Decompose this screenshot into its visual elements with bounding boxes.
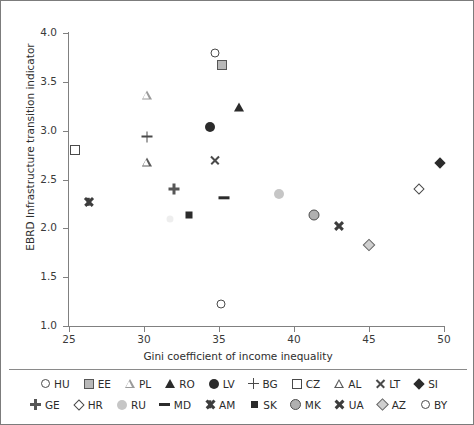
legend-label: HU [54, 378, 70, 390]
y-tick [63, 277, 68, 278]
y-tick-label: 4.0 [19, 27, 57, 37]
legend-label: MK [305, 399, 321, 411]
data-point-az [365, 240, 374, 249]
square-filled-icon [186, 211, 193, 218]
x-tick [294, 327, 295, 332]
legend-item-az[interactable]: AZ [376, 398, 406, 411]
data-point-ro [234, 103, 244, 112]
legend-label: EE [98, 378, 111, 390]
legend-symbol [72, 398, 86, 411]
y-tick-label: 3.5 [19, 76, 57, 86]
y-axis-title: EBRD Infrastructure transition indicator [24, 22, 36, 272]
legend-label: HR [88, 399, 103, 411]
legend-item-bg[interactable]: BG [247, 377, 278, 390]
legend-item-ro[interactable]: RO [163, 377, 195, 390]
legend-item-pl[interactable]: PL [123, 377, 151, 390]
plus-icon [248, 378, 259, 389]
legend-symbol [289, 398, 303, 411]
data-point-hr [415, 185, 423, 193]
legend-label: RU [131, 399, 146, 411]
legend-label: GE [45, 399, 60, 411]
data-point-am [83, 196, 94, 207]
legend-symbol [203, 398, 217, 411]
legend-label: LT [389, 378, 400, 390]
plus-box-icon [169, 184, 180, 195]
scatter-chart-figure: EBRD Infrastructure transition indicator… [0, 0, 474, 425]
legend-item-ru[interactable]: RU [115, 398, 146, 411]
legend-symbol [123, 377, 137, 390]
circle-lightgray-icon [274, 189, 284, 199]
diamond-gray-icon [376, 398, 389, 411]
y-tick-label: 2.0 [19, 222, 57, 232]
x-bold-icon [334, 220, 345, 231]
triangle-open-icon [334, 379, 344, 388]
y-tick-label: 1.0 [19, 320, 57, 330]
x-tick-label: 30 [124, 334, 164, 345]
triangle-open-gray-icon [142, 90, 152, 99]
diamond-filled-icon [413, 378, 424, 389]
square-filled-icon [251, 401, 258, 408]
triangle-open-gray-icon [125, 379, 135, 388]
legend-item-mk[interactable]: MK [289, 398, 321, 411]
x-tick [444, 327, 445, 332]
legend-item-si[interactable]: SI [412, 377, 438, 390]
circle-open-icon [210, 48, 219, 57]
legend-item-ua[interactable]: UA [333, 398, 364, 411]
legend-item-al[interactable]: AL [332, 377, 361, 390]
x-tick-label: 25 [49, 334, 89, 345]
legend-symbol [82, 377, 96, 390]
circle-filled-icon [209, 379, 219, 389]
legend-item-hu[interactable]: HU [38, 377, 70, 390]
legend-symbol [333, 398, 347, 411]
asterisk-icon [83, 196, 94, 207]
plus-box-icon [30, 399, 41, 410]
legend-item-lt[interactable]: LT [373, 377, 400, 390]
data-point-pl [142, 90, 152, 99]
legend-item-cz[interactable]: CZ [290, 377, 321, 390]
square-open-icon [70, 145, 80, 155]
plot-area [69, 33, 444, 326]
legend-label: UA [349, 399, 364, 411]
triangle-filled-icon [165, 379, 175, 388]
data-point-hu [210, 48, 219, 57]
y-tick-label: 1.5 [19, 271, 57, 281]
diamond-open-icon [73, 399, 84, 410]
legend-label: PL [139, 378, 151, 390]
legend-symbol [158, 398, 172, 411]
circle-gray-outline-icon [308, 209, 319, 220]
legend-symbol [247, 398, 261, 411]
legend-item-sk[interactable]: SK [247, 398, 277, 411]
legend-item-md[interactable]: MD [158, 398, 191, 411]
legend-symbol [38, 377, 52, 390]
legend-symbol [332, 377, 346, 390]
x-mark-icon [209, 154, 220, 165]
data-point-lt [209, 154, 220, 165]
data-point-al [142, 157, 152, 166]
legend-row-1: HUEEPLROLVBGCZALLTSI [9, 373, 467, 394]
y-tick [63, 228, 68, 229]
data-point-ru [274, 189, 284, 199]
x-axis-line [68, 326, 445, 327]
legend-item-by[interactable]: BY [418, 398, 447, 411]
legend-label: SK [263, 399, 277, 411]
legend-symbol [207, 377, 221, 390]
legend-symbol [290, 377, 304, 390]
legend-item-ge[interactable]: GE [29, 398, 60, 411]
legend-item-am[interactable]: AM [203, 398, 235, 411]
legend-symbol [376, 398, 390, 411]
legend-label: MD [174, 399, 191, 411]
x-mark-icon [375, 378, 386, 389]
x-tick-label: 50 [424, 334, 464, 345]
y-tick-label: 2.5 [19, 174, 57, 184]
diamond-gray-icon [363, 239, 376, 252]
circle-filled-icon [205, 122, 215, 132]
square-gray-icon [84, 379, 94, 389]
legend-symbol [115, 398, 129, 411]
diamond-open-icon [413, 184, 424, 195]
triangle-open-icon [142, 157, 152, 166]
legend-item-ee[interactable]: EE [82, 377, 111, 390]
legend-item-lv[interactable]: LV [207, 377, 235, 390]
legend-item-hr[interactable]: HR [72, 398, 103, 411]
faint-marker-icon [166, 215, 173, 222]
data-point-ee [217, 60, 227, 70]
